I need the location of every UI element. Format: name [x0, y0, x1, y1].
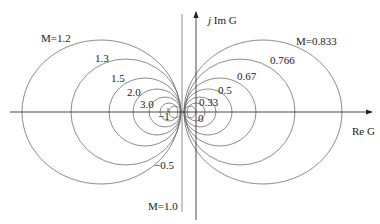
imag-axis-label: j Im G	[206, 14, 237, 26]
label-minus-one: −1	[158, 110, 170, 122]
label-0.766: 0.766	[270, 54, 295, 66]
label-1.5: 1.5	[111, 72, 125, 84]
label-m-1.2: M=1.2	[41, 32, 71, 44]
label-0.67: 0.67	[237, 70, 257, 82]
label-1.3: 1.3	[95, 52, 109, 64]
label-3.0: 3.0	[140, 98, 154, 110]
label-zero: 0	[198, 112, 204, 124]
real-axis-label: Re G	[352, 125, 375, 137]
m-circles-diagram: j Im G Re G M=1.2 1.3 1.5 2.0 3.0 M=0.83…	[0, 0, 380, 224]
label-m-1.0: M=1.0	[148, 200, 178, 212]
label-0.33: 0.33	[199, 96, 219, 108]
label-0.5: 0.5	[218, 84, 232, 96]
label-minus-0.5: −0.5	[154, 159, 174, 171]
label-m-0.833: M=0.833	[296, 35, 337, 47]
label-2.0: 2.0	[127, 86, 141, 98]
